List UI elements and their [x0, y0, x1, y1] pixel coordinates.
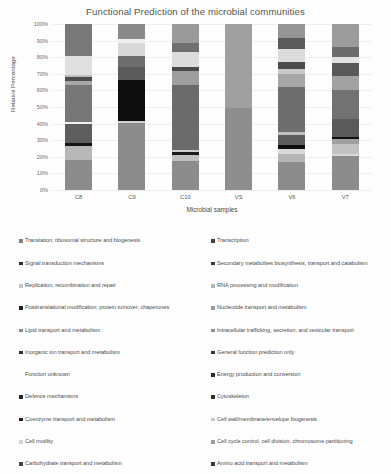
y-tick-label: 50%	[37, 104, 48, 110]
legend-item[interactable]: Carbohydrate transport and metabolism	[19, 453, 211, 474]
bar-segment	[278, 154, 305, 161]
bar-segment	[65, 124, 92, 143]
y-tick-label: 40%	[37, 121, 48, 127]
legend-swatch-icon	[211, 440, 215, 444]
x-tick-label: C9	[118, 194, 145, 200]
legend-label: Intracellular trafficking, secretion, an…	[217, 328, 354, 334]
y-tick-label: 20%	[37, 154, 48, 160]
legend-item[interactable]: Defence mechanisms	[19, 386, 211, 408]
legend-item[interactable]: Transcription	[211, 230, 391, 252]
bar-v6[interactable]	[278, 24, 305, 190]
legend-label: General function prediction only	[217, 350, 294, 356]
legend-label: Transcription	[217, 238, 248, 244]
bar-c10[interactable]	[172, 24, 199, 190]
bar-segment	[172, 85, 199, 151]
legend-item[interactable]: Energy production and conversion	[211, 364, 391, 386]
legend-label: Signal transduction mechanisms	[25, 261, 104, 267]
y-tick-label: 80%	[37, 54, 48, 60]
legend-swatch-icon	[211, 373, 215, 377]
legend-label: Cell motility	[25, 439, 53, 445]
legend-swatch-icon	[19, 373, 23, 377]
legend-label: RNA processing and modification	[217, 283, 298, 289]
legend-label: Secondary metabolites biosynthesis, tran…	[217, 261, 368, 267]
bar-segment	[278, 49, 305, 62]
bar-segment	[332, 63, 359, 76]
legend-label: Function unknown	[25, 372, 70, 378]
legend-item[interactable]: Inorganic ion transport and metabolism	[19, 341, 211, 363]
bar-segment	[278, 74, 305, 87]
legend-item[interactable]: Intracellular trafficking, secretion, an…	[211, 319, 391, 341]
legend-label: Replication, recombination and repair	[25, 283, 116, 289]
legend-item[interactable]: Lipid transport and metabolism	[19, 319, 211, 341]
bar-segment	[172, 71, 199, 84]
y-tick-label: 70%	[37, 71, 48, 77]
legend-label: Posttranslational modification, protein …	[25, 305, 169, 311]
y-tick-label: 90%	[37, 38, 48, 44]
legend-swatch-icon	[211, 262, 215, 266]
legend-label: Defence mechanisms	[25, 394, 78, 400]
legend-item[interactable]: Amino acid transport and metabolism	[211, 453, 391, 474]
y-tick-label: 100%	[34, 21, 48, 27]
legend-item[interactable]: Translation, ribosomal structure and bio…	[19, 230, 211, 252]
bar-segment	[118, 56, 145, 67]
legend-swatch-icon	[211, 239, 215, 243]
legend-item[interactable]: General function prediction only	[211, 341, 391, 363]
bar-segment	[65, 85, 92, 122]
legend-swatch-icon	[211, 462, 215, 466]
legend-label: Cell wall/membrane/envelope biogenesis	[217, 417, 317, 423]
legend-label: Energy production and conversion	[217, 372, 300, 378]
legend-label: Coenzyme transport and metabolism	[25, 417, 115, 423]
bar-segment	[332, 156, 359, 190]
x-axis-ticks: C8C9C10VSV6V7	[52, 194, 372, 200]
legend-swatch-icon	[19, 418, 23, 422]
x-tick-label: V6	[278, 194, 305, 200]
legend-item[interactable]: Replication, recombination and repair	[19, 275, 211, 297]
legend-swatch-icon	[19, 351, 23, 355]
bar-segment	[172, 43, 199, 52]
bar-segment	[332, 119, 359, 138]
bar-segment	[278, 62, 305, 69]
legend-item[interactable]: Coenzyme transport and metabolism	[19, 408, 211, 430]
legend-label: Cell cycle control, cell division, chrom…	[217, 439, 352, 445]
legend-swatch-icon	[211, 351, 215, 355]
gridline	[52, 190, 372, 191]
legend-item[interactable]: Nucleotide transport and metabolism	[211, 297, 391, 319]
x-tick-label: C8	[65, 194, 92, 200]
legend-swatch-icon	[19, 395, 23, 399]
legend-item[interactable]: Signal transduction mechanisms	[19, 252, 211, 274]
bar-segment	[65, 146, 92, 160]
bar-segment	[332, 90, 359, 119]
legend-item[interactable]: RNA processing and modification	[211, 275, 391, 297]
page-title: Functional Prediction of the microbial c…	[0, 6, 391, 17]
legend-item[interactable]: Cell cycle control, cell division, chrom…	[211, 431, 391, 453]
bar-v7[interactable]	[332, 24, 359, 190]
bar-segment	[172, 24, 199, 43]
legend-swatch-icon	[19, 440, 23, 444]
legend-swatch-icon	[19, 306, 23, 310]
bar-c8[interactable]	[65, 24, 92, 190]
bar-segment	[332, 47, 359, 58]
legend-label: Carbohydrate transport and metabolism	[25, 461, 122, 467]
bar-segment	[225, 24, 252, 108]
legend-swatch-icon	[211, 418, 215, 422]
x-tick-label: C10	[172, 194, 199, 200]
legend-swatch-icon	[211, 329, 215, 333]
legend-item[interactable]: Cell wall/membrane/envelope biogenesis	[211, 408, 391, 430]
legend-item[interactable]: Posttranslational modification, protein …	[19, 297, 211, 319]
legend-item[interactable]: Cytoskeleton	[211, 386, 391, 408]
bar-segment	[278, 162, 305, 190]
bar-c9[interactable]	[118, 24, 145, 190]
bar-vs[interactable]	[225, 24, 252, 190]
legend-label: Inorganic ion transport and metabolism	[25, 350, 120, 356]
bar-segment	[118, 67, 145, 79]
legend-swatch-icon	[19, 329, 23, 333]
legend-item[interactable]: Cell motility	[19, 431, 211, 453]
legend-swatch-icon	[19, 262, 23, 266]
bar-segment	[278, 24, 305, 38]
legend-item[interactable]: Function unknown	[19, 364, 211, 386]
legend-swatch-icon	[211, 306, 215, 310]
bar-segment	[172, 52, 199, 67]
bar-segment	[118, 80, 145, 122]
legend-swatch-icon	[211, 395, 215, 399]
legend-item[interactable]: Secondary metabolites biosynthesis, tran…	[211, 252, 391, 274]
